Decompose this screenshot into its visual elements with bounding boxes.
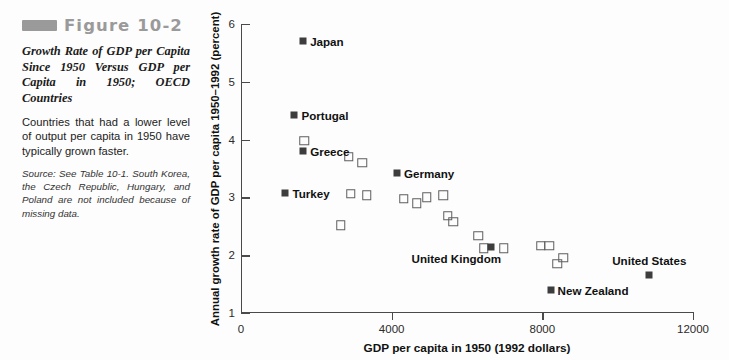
x-tick-label: 0 — [238, 323, 244, 335]
data-point-label-japan: Japan — [310, 35, 344, 48]
data-point-unlabeled[interactable] — [448, 217, 458, 227]
figure-caption-block: Figure 10-2 Growth Rate of GDP per Capit… — [22, 16, 190, 220]
data-point-label-united-states: United States — [612, 254, 686, 267]
x-axis-line — [241, 312, 693, 313]
y-tick-label: 1 — [229, 307, 235, 319]
x-axis-title: GDP per capita in 1950 (1992 dollars) — [241, 341, 693, 355]
data-point-germany[interactable] — [393, 170, 400, 177]
y-axis-title: Annual growth rate of GDP per capita 195… — [207, 24, 223, 313]
y-tick — [241, 82, 250, 83]
scatter-chart: 123456 04000800012000 JapanPortugalGreec… — [196, 0, 729, 360]
data-point-unlabeled[interactable] — [544, 241, 554, 251]
y-tick — [241, 313, 250, 314]
x-tick — [392, 312, 393, 320]
y-tick — [241, 24, 250, 25]
y-tick-label: 6 — [229, 18, 235, 30]
data-point-unlabeled[interactable] — [553, 259, 563, 269]
figure-title: Growth Rate of GDP per Capita Since 1950… — [22, 44, 190, 107]
figure-header: Figure 10-2 — [22, 16, 190, 35]
data-point-unlabeled[interactable] — [399, 194, 409, 204]
figure-description: Countries that had a lower level of outp… — [22, 115, 190, 160]
figure-number: Figure 10-2 — [64, 16, 183, 35]
y-tick-label: 2 — [229, 249, 235, 261]
data-point-unlabeled[interactable] — [358, 158, 368, 168]
data-point-turkey[interactable] — [282, 189, 289, 196]
y-tick-label: 4 — [229, 134, 235, 146]
figure-bar-icon — [22, 20, 57, 31]
data-point-united-kingdom[interactable] — [488, 244, 495, 251]
data-point-unlabeled[interactable] — [346, 189, 356, 199]
data-point-unlabeled[interactable] — [362, 190, 372, 200]
data-point-unlabeled[interactable] — [439, 190, 449, 200]
data-point-portugal[interactable] — [291, 112, 298, 119]
plot-area: 123456 04000800012000 JapanPortugalGreec… — [241, 24, 693, 313]
figure-source-note: Source: See Table 10-1. South Korea, the… — [22, 167, 190, 220]
data-point-unlabeled[interactable] — [412, 198, 422, 208]
x-tick — [693, 312, 694, 320]
data-point-label-united-kingdom: United Kingdom — [412, 252, 502, 265]
figure-page: Figure 10-2 Growth Rate of GDP per Capit… — [0, 0, 729, 360]
data-point-label-germany: Germany — [404, 167, 454, 180]
data-point-unlabeled[interactable] — [300, 136, 310, 146]
x-tick — [542, 312, 543, 320]
y-tick — [241, 197, 250, 198]
data-point-unlabeled[interactable] — [336, 220, 346, 230]
data-point-united-states[interactable] — [646, 272, 653, 279]
data-point-japan[interactable] — [300, 38, 307, 45]
x-tick-label: 12000 — [677, 323, 709, 335]
data-point-greece[interactable] — [300, 148, 307, 155]
data-point-label-new-zealand: New Zealand — [558, 283, 629, 296]
y-tick — [241, 140, 250, 141]
x-tick-label: 8000 — [530, 323, 556, 335]
y-axis-line — [241, 24, 242, 313]
y-tick-label: 5 — [229, 76, 235, 88]
x-tick-label: 4000 — [379, 323, 405, 335]
y-axis-title-text: Annual growth rate of GDP per capita 195… — [209, 11, 221, 325]
data-point-unlabeled[interactable] — [422, 193, 432, 203]
data-point-unlabeled[interactable] — [474, 231, 484, 241]
y-tick-label: 3 — [229, 191, 235, 203]
data-point-label-portugal: Portugal — [301, 109, 348, 122]
y-tick — [241, 255, 250, 256]
data-point-label-turkey: Turkey — [292, 186, 329, 199]
data-point-label-greece: Greece — [310, 145, 349, 158]
data-point-new-zealand[interactable] — [547, 286, 554, 293]
